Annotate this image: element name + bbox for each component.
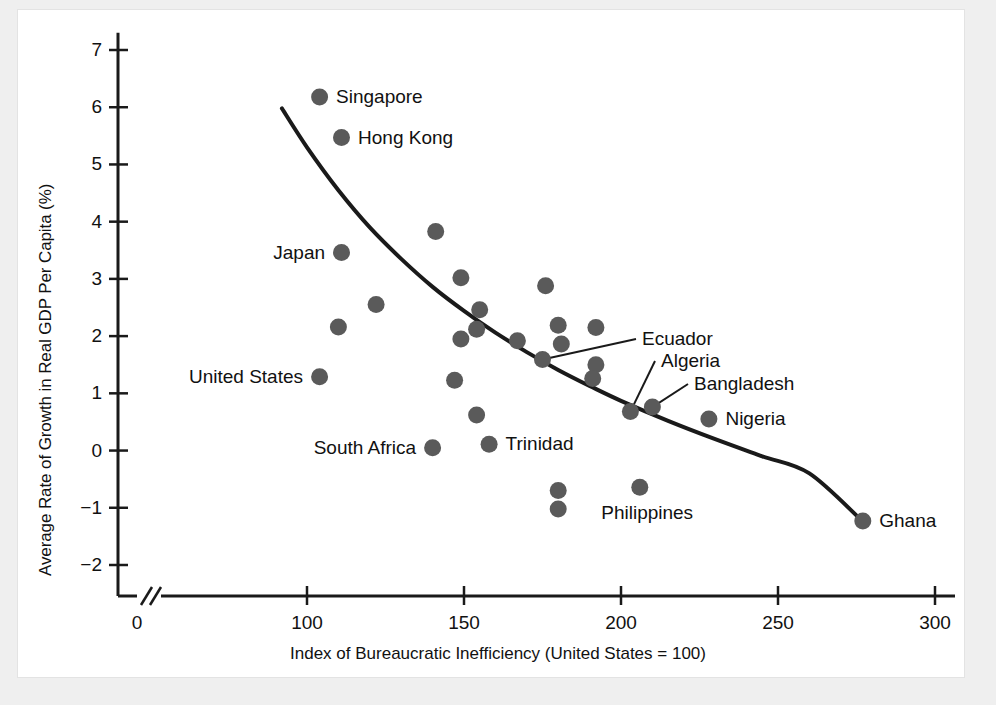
data-point (452, 331, 469, 348)
data-point (550, 482, 567, 499)
data-point (537, 277, 554, 294)
data-point (553, 336, 570, 353)
data-point (644, 399, 661, 416)
data-point (550, 500, 567, 517)
data-point (854, 512, 871, 529)
data-point (587, 319, 604, 336)
data-point (368, 296, 385, 313)
data-point (427, 223, 444, 240)
data-point (452, 269, 469, 286)
data-point (471, 301, 488, 318)
axes-layer (109, 33, 955, 605)
data-point (468, 321, 485, 338)
data-point (550, 317, 567, 334)
data-point (468, 407, 485, 424)
data-point (424, 439, 441, 456)
data-point (584, 370, 601, 387)
data-point (446, 372, 463, 389)
data-point (330, 319, 347, 336)
data-point (333, 129, 350, 146)
trend-curve-layer (282, 108, 863, 521)
figure-canvas: Average Rate of Growth in Real GDP Per C… (0, 0, 996, 705)
trend-curve (282, 108, 863, 521)
data-point (534, 351, 551, 368)
scatter-plot-svg (0, 0, 996, 705)
data-point (700, 411, 717, 428)
data-point (311, 368, 328, 385)
data-point (509, 332, 526, 349)
data-point (622, 403, 639, 420)
data-point (481, 436, 498, 453)
data-point (631, 479, 648, 496)
data-point (333, 244, 350, 261)
data-point (311, 88, 328, 105)
